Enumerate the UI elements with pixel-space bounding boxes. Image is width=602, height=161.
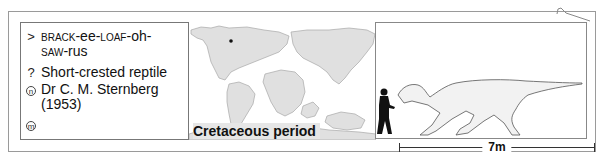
museum-row: m: [21, 117, 41, 132]
pronunciation-text: BRACK-ee-LOAF-oh-SAW-rus: [41, 29, 181, 59]
cretaceous-world-map: Cretaceous period: [189, 22, 376, 140]
named-by-icon: n: [26, 86, 36, 96]
named-by-year: (1953): [41, 96, 81, 112]
pronunciation-icon: >: [21, 29, 41, 44]
named-by-row: n Dr C. M. Sternberg (1953): [21, 82, 158, 112]
meaning-text: Short-crested reptile: [41, 65, 167, 80]
period-label: Cretaceous period: [193, 123, 320, 139]
dinosaur-silhouette-icon: [398, 80, 582, 135]
corner-hook-mark: [556, 4, 596, 22]
scale-bar: 7m: [399, 141, 595, 153]
named-by-name: Dr C. M. Sternberg: [41, 81, 158, 97]
human-silhouette-icon: [377, 89, 395, 135]
size-comparison-box: [375, 22, 587, 139]
museum-icon: m: [26, 121, 36, 131]
meaning-icon: ?: [21, 65, 41, 80]
scale-label: 7m: [482, 141, 511, 154]
info-box: > BRACK-ee-LOAF-oh-SAW-rus ? Short-crest…: [20, 22, 189, 140]
meaning-row: ? Short-crested reptile: [21, 65, 167, 80]
pronunciation-row: > BRACK-ee-LOAF-oh-SAW-rus: [21, 29, 181, 59]
size-comparison-graphic: [376, 23, 588, 140]
